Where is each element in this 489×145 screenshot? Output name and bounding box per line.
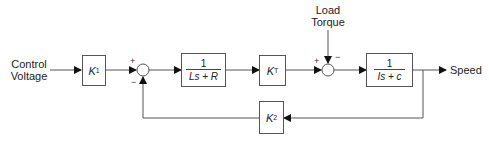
summing-junction-2 xyxy=(322,64,334,76)
block-mechanical-numerator: 1 xyxy=(384,58,396,69)
block-electrical-numerator: 1 xyxy=(198,58,210,69)
block-k1: K1 xyxy=(82,55,106,86)
block-k2: K2 xyxy=(259,101,284,134)
input-label-line2: Voltage xyxy=(6,70,52,82)
block-kt-symbol: K xyxy=(267,65,274,77)
block-k1-subscript: 1 xyxy=(96,67,100,74)
block-k2-symbol: K xyxy=(266,112,273,124)
block-mechanical-denominator: Is + c xyxy=(374,69,404,82)
block-mechanical: 1 Is + c xyxy=(366,53,413,87)
summing-junction-1 xyxy=(137,64,149,76)
disturbance-label: Load Torque xyxy=(308,4,348,28)
output-label: Speed xyxy=(450,64,482,76)
sum2-minus-sign: − xyxy=(335,53,340,62)
block-kt-subscript: T xyxy=(274,67,278,74)
block-kt: KT xyxy=(259,55,286,86)
input-label-line1: Control xyxy=(6,58,52,70)
diagram-wires xyxy=(0,0,489,145)
block-k1-symbol: K xyxy=(88,65,95,77)
block-k2-subscript: 2 xyxy=(273,114,277,121)
block-electrical: 1 Ls + R xyxy=(181,53,226,87)
sum2-plus-sign: + xyxy=(314,57,319,66)
sum1-plus-sign: + xyxy=(130,57,135,66)
block-electrical-denominator: Ls + R xyxy=(186,69,221,82)
disturbance-label-line1: Load xyxy=(308,4,348,16)
disturbance-label-line2: Torque xyxy=(308,16,348,28)
sum1-minus-sign: − xyxy=(131,78,136,87)
input-label: Control Voltage xyxy=(6,58,52,82)
